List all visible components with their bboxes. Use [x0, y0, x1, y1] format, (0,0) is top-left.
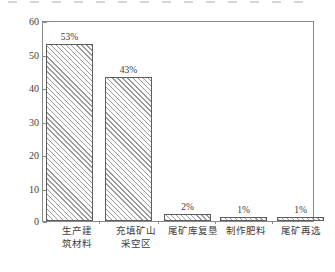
y-tick-label: 20: [29, 149, 39, 162]
y-tick-label: 60: [29, 15, 39, 28]
scan-artifact: [8, 1, 308, 3]
bar-chart-figure: 利用率/% 60 50 40 30 20 10 0: [0, 0, 335, 272]
y-tick-label: 10: [29, 183, 39, 196]
x-tick-mark: [99, 221, 100, 224]
y-tick-label: 30: [29, 116, 39, 129]
x-label-weikuang-zaixuan: 尾矿再选: [268, 225, 334, 238]
bar-value-label: 2%: [181, 202, 194, 213]
x-tick-mark: [158, 221, 159, 224]
x-label-line-1: 生产建: [62, 226, 92, 236]
x-label-line-1: 尾矿再选: [281, 226, 321, 236]
bar-chongtian-kuangshan-caikongqu[interactable]: 43%: [105, 77, 152, 221]
y-tick-mark: [43, 222, 47, 223]
bar-value-label: 1%: [237, 205, 250, 216]
bar-weikuangku-fuken[interactable]: 2%: [164, 214, 211, 221]
x-label-line-1: 尾矿库复垦: [168, 226, 218, 236]
y-tick-label: 40: [29, 82, 39, 95]
bar-value-label: 1%: [294, 205, 307, 216]
bar-value-label: 53%: [61, 32, 78, 43]
x-tick-mark: [215, 221, 216, 224]
y-tick-label: 50: [29, 49, 39, 62]
bar-shengchan-jianzhu-cailiao[interactable]: 53%: [46, 44, 93, 222]
x-tick-mark: [272, 221, 273, 224]
x-label-line-1: 充填矿山: [116, 226, 156, 236]
y-tick-mark: [43, 22, 47, 23]
x-label-line-2: 采空区: [97, 238, 175, 251]
bar-value-label: 43%: [120, 65, 137, 76]
x-label-line-1: 制作肥料: [226, 226, 266, 236]
y-tick-label: 0: [34, 215, 39, 228]
plot-area: 利用率/% 60 50 40 30 20 10 0: [42, 21, 314, 222]
bar-zhizuo-feiliao[interactable]: 1%: [220, 217, 267, 221]
bar-weikuang-zaixuan[interactable]: 1%: [277, 217, 324, 221]
